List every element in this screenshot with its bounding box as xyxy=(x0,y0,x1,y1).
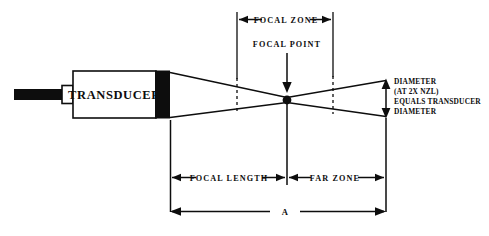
far-zone-arrow-right xyxy=(375,174,384,181)
overall-arrow-right xyxy=(375,207,386,215)
diameter-note-line-2: (AT 2X NZL) xyxy=(394,87,439,96)
diameter-note-line-4: DIAMETER xyxy=(394,107,437,116)
diameter-arrow-up xyxy=(382,79,391,90)
cable xyxy=(14,89,63,100)
diameter-note-line-3: EQUALS TRANSDUCER xyxy=(394,97,481,106)
focal-length-arrow-left xyxy=(172,174,181,181)
ultrasonic-beam-diagram: TRANSDUCER FOCAL ZONE FOCAL POINT FOCAL … xyxy=(0,0,489,236)
focal-point-arrowhead xyxy=(282,82,291,93)
bottom-extension-lines xyxy=(171,104,387,212)
diameter-dimension xyxy=(382,79,391,119)
overall-arrow-left xyxy=(170,207,181,215)
focal-zone-label: FOCAL ZONE xyxy=(254,16,318,25)
diagram-canvas: TRANSDUCER FOCAL ZONE FOCAL POINT FOCAL … xyxy=(0,0,489,236)
overall-dimension-label: A xyxy=(282,207,289,217)
diameter-note: DIAMETER (AT 2X NZL) EQUALS TRANSDUCER D… xyxy=(394,77,481,116)
focal-zone-arrow-left xyxy=(239,16,248,23)
sound-beam-envelope xyxy=(170,73,386,118)
focal-point-leader xyxy=(282,53,291,93)
transducer-label: TRANSDUCER xyxy=(68,88,161,102)
far-zone-label: FAR ZONE xyxy=(310,174,360,183)
diameter-arrow-down xyxy=(382,108,391,119)
overall-dimension xyxy=(170,207,386,215)
focal-length-arrow-right xyxy=(276,174,285,181)
diameter-note-line-1: DIAMETER xyxy=(394,77,437,86)
beam-lower-edge xyxy=(170,103,386,118)
focal-point-dot xyxy=(283,96,292,105)
far-zone-arrow-left xyxy=(289,174,298,181)
focal-point-label: FOCAL POINT xyxy=(253,40,321,49)
beam-upper-edge xyxy=(170,73,386,98)
focal-length-label: FOCAL LENGTH xyxy=(190,174,268,183)
focal-zone-arrow-right xyxy=(322,16,331,23)
focal-zone-boundaries xyxy=(237,76,333,114)
